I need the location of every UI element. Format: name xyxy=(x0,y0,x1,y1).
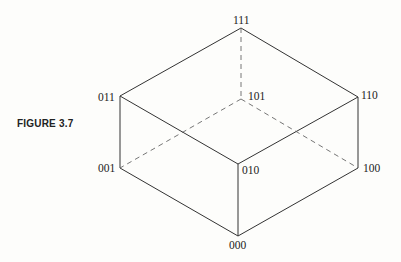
vertex-label-100: 100 xyxy=(363,162,381,174)
vertex-label-110: 110 xyxy=(361,89,378,101)
edge-111-110 xyxy=(241,28,358,97)
edge-110-010 xyxy=(238,97,358,164)
edge-101-001 xyxy=(120,99,241,168)
vertex-label-011: 011 xyxy=(98,91,115,103)
vertex-labels: 111 011 101 110 001 010 100 000 xyxy=(98,14,381,251)
edge-111-011 xyxy=(120,28,241,96)
edge-101-100 xyxy=(241,99,358,168)
edge-100-000 xyxy=(238,168,358,236)
solid-edges xyxy=(120,28,358,236)
vertex-label-101: 101 xyxy=(248,90,266,102)
cube-diagram: 111 011 101 110 001 010 100 000 xyxy=(0,0,401,262)
edge-011-010 xyxy=(120,96,238,164)
vertex-label-010: 010 xyxy=(242,164,260,176)
hidden-edges xyxy=(120,28,358,168)
vertex-label-001: 001 xyxy=(98,162,116,174)
edge-001-000 xyxy=(120,168,238,236)
vertex-label-111: 111 xyxy=(233,14,250,26)
vertex-label-000: 000 xyxy=(229,239,247,251)
